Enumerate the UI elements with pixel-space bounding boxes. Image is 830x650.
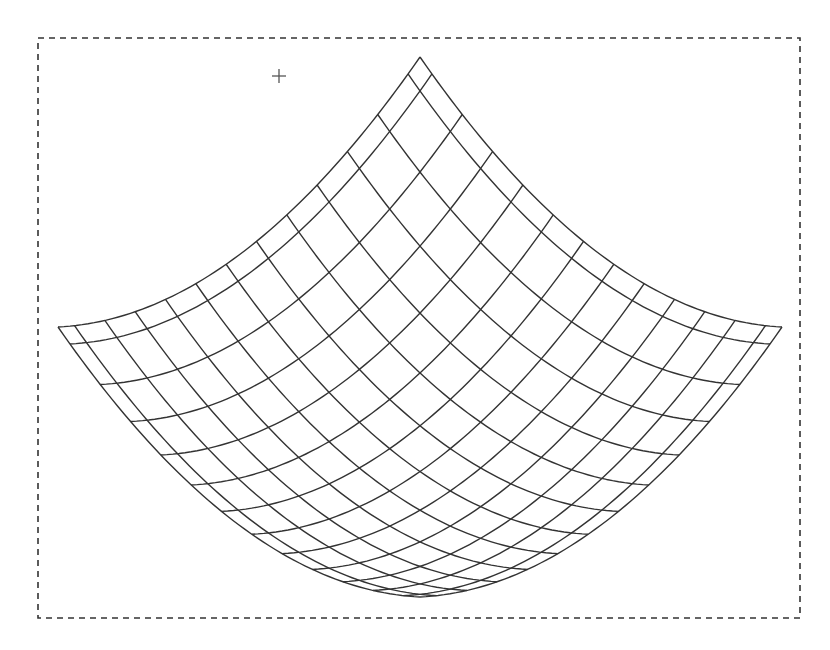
wireframe-mesh bbox=[58, 57, 782, 597]
mesh-line-u bbox=[312, 299, 674, 569]
mesh-line-v bbox=[420, 57, 782, 327]
mesh-line-v bbox=[58, 327, 420, 597]
mesh-line-v bbox=[166, 299, 528, 569]
drawing-canvas[interactable] bbox=[0, 0, 830, 650]
mesh-line-u bbox=[343, 312, 705, 582]
mesh-line-v bbox=[75, 326, 437, 596]
mesh-line-u bbox=[420, 327, 782, 597]
mesh-line-v bbox=[378, 115, 740, 385]
mesh-line-u bbox=[131, 152, 493, 422]
mesh-line-v bbox=[135, 312, 497, 582]
mesh-line-u bbox=[403, 326, 765, 596]
mesh-line-v bbox=[196, 284, 558, 554]
mesh-line-u bbox=[222, 241, 584, 511]
mesh-line-u bbox=[58, 57, 420, 327]
selection-frame[interactable] bbox=[38, 38, 800, 618]
mesh-line-u bbox=[100, 115, 462, 385]
mesh-line-u bbox=[373, 320, 735, 590]
crosshair-icon bbox=[272, 69, 286, 83]
mesh-line-v bbox=[105, 320, 467, 590]
mesh-line-u bbox=[282, 284, 644, 554]
mesh-line-v bbox=[256, 241, 618, 511]
mesh-line-v bbox=[347, 152, 709, 422]
